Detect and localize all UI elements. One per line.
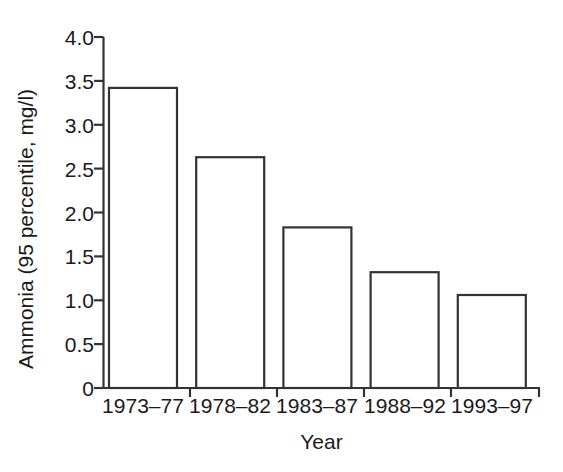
- x-tick-label-4: 1988–92: [358, 394, 452, 418]
- x-axis-title: Year: [103, 430, 540, 454]
- y-axis-ticks: [94, 37, 104, 388]
- x-tick-label-2: 1978–82: [183, 394, 277, 418]
- x-tick-label-5: 1993–97: [445, 394, 539, 418]
- chart-figure: Ammonia (95 percentile, mg/l) 4.0 3.5 3.…: [0, 0, 563, 472]
- bar-1983-87[interactable]: [283, 227, 351, 388]
- bar-1978-82[interactable]: [196, 157, 264, 388]
- x-tick-label-3: 1983–87: [270, 394, 364, 418]
- bar-1993-97[interactable]: [458, 295, 526, 388]
- bar-series: [109, 88, 526, 388]
- bar-1988-92[interactable]: [371, 272, 439, 388]
- bar-1973-77[interactable]: [109, 88, 177, 388]
- x-tick-label-1: 1973–77: [96, 394, 190, 418]
